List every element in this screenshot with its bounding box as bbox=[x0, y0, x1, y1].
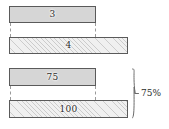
curly-brace-icon bbox=[131, 68, 139, 119]
bar-value-label: 3 bbox=[50, 10, 56, 19]
bar-100: 100 bbox=[9, 100, 128, 118]
bar-comparison-figure: 3 4 75 100 75% bbox=[0, 0, 169, 129]
bar-4: 4 bbox=[9, 37, 128, 54]
connector-line bbox=[95, 23, 96, 37]
connector-line bbox=[10, 86, 11, 100]
connector-line bbox=[95, 86, 96, 100]
bar-3: 3 bbox=[9, 6, 96, 23]
bar-value-label: 75 bbox=[47, 73, 59, 82]
bar-value-label: 100 bbox=[60, 105, 78, 114]
brace-annotation: 75% bbox=[131, 68, 161, 119]
bar-value-label: 4 bbox=[66, 41, 72, 50]
connector-line bbox=[10, 23, 11, 37]
brace-label: 75% bbox=[141, 89, 161, 98]
bar-75: 75 bbox=[9, 68, 96, 86]
